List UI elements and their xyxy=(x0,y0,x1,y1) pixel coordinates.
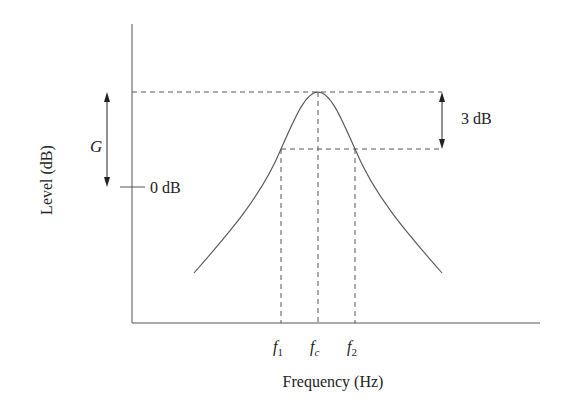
gain-label: G xyxy=(90,137,102,156)
filter-response-diagram: G 0 dB 3 dB Level (dB) Frequency (Hz) f1… xyxy=(0,0,566,414)
tick-f1-sub: 1 xyxy=(277,346,283,358)
y-axis-label: Level (dB) xyxy=(38,145,56,215)
gain-arrow xyxy=(104,92,110,187)
x-axis-label: Frequency (Hz) xyxy=(283,373,384,391)
tick-f2: f2 xyxy=(347,338,357,358)
3db-label: 3 dB xyxy=(461,110,492,127)
tick-f1: f1 xyxy=(273,338,283,358)
tick-fc: fc xyxy=(310,338,319,358)
tick-f2-sub: 2 xyxy=(351,346,357,358)
3db-arrow xyxy=(439,92,445,149)
reference-lines xyxy=(132,92,442,323)
zero-db-label: 0 dB xyxy=(150,179,181,196)
tick-fc-sub: c xyxy=(314,346,319,358)
